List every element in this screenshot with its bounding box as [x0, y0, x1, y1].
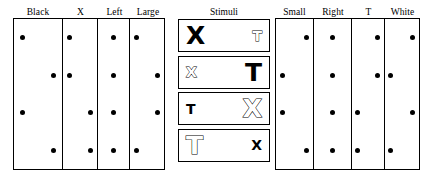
- dot: [330, 148, 335, 153]
- dot-cell: [14, 19, 62, 57]
- dot: [134, 35, 139, 40]
- dot: [88, 110, 93, 115]
- dot-cell: [98, 19, 130, 57]
- dot: [111, 110, 116, 115]
- dot: [67, 73, 72, 78]
- dot: [20, 110, 25, 115]
- dot: [88, 148, 93, 153]
- dot: [330, 73, 335, 78]
- right-dot-matrix-panel: [275, 18, 420, 170]
- dot-cell: [385, 94, 420, 132]
- column-header-black: Black: [13, 7, 63, 17]
- stimulus-glyph-right: T: [245, 60, 262, 85]
- dot-cell: [63, 19, 97, 57]
- dot: [111, 73, 116, 78]
- dot-cell: [130, 132, 164, 170]
- stimuli-list: X T X T T X T X: [178, 17, 270, 162]
- dot-cell: [63, 132, 97, 170]
- stimulus-card: T X: [178, 92, 270, 125]
- dot: [410, 110, 415, 115]
- dot: [51, 73, 56, 78]
- dot-cell: [276, 19, 313, 57]
- dot-cell: [98, 57, 130, 95]
- dot-cell: [14, 57, 62, 95]
- column-header-small: Small: [275, 7, 314, 17]
- left-panel-header-row: Black X Left Large: [13, 0, 165, 17]
- column-header-t: T: [352, 7, 385, 17]
- dot: [388, 148, 393, 153]
- dot-cell: [63, 57, 97, 95]
- dot-cell: [14, 94, 62, 132]
- figure-root: Black X Left Large: [0, 0, 428, 180]
- dot: [51, 148, 56, 153]
- column-header-large: Large: [131, 7, 165, 17]
- dot-cell: [352, 57, 384, 95]
- dot-column-large: [130, 19, 164, 169]
- stimuli-title: Stimuli: [178, 0, 270, 17]
- dot-column-small: [276, 19, 314, 169]
- dot-cell: [276, 94, 313, 132]
- stimulus-card: T X: [178, 129, 270, 162]
- dot-cell: [352, 132, 384, 170]
- column-header-x: X: [63, 7, 98, 17]
- dot: [330, 35, 335, 40]
- stimulus-glyph-left: T: [186, 133, 203, 158]
- dot: [410, 35, 415, 40]
- dot-cell: [276, 57, 313, 95]
- dot-cell: [98, 94, 130, 132]
- dot: [20, 35, 25, 40]
- dot-cell: [385, 132, 420, 170]
- dot-column-right: [314, 19, 351, 169]
- dot-cell: [130, 94, 164, 132]
- dot: [375, 35, 380, 40]
- dot: [67, 35, 72, 40]
- stimulus-glyph-right: X: [243, 96, 262, 121]
- dot-cell: [14, 132, 62, 170]
- dot-column-t: [352, 19, 385, 169]
- dot: [375, 73, 380, 78]
- stimulus-glyph-right: X: [251, 138, 262, 152]
- stimulus-card: X T: [178, 56, 270, 89]
- dot: [111, 148, 116, 153]
- dot: [155, 73, 160, 78]
- stimulus-glyph-left: T: [186, 102, 196, 116]
- right-panel-header-row: Small Right T White: [275, 0, 420, 17]
- stimulus-card: X T: [178, 19, 270, 52]
- left-dot-matrix-panel: [13, 18, 165, 170]
- column-header-left: Left: [98, 7, 131, 17]
- dot: [280, 110, 285, 115]
- stimulus-glyph-left: X: [186, 65, 197, 79]
- stimulus-glyph-left: X: [186, 23, 205, 48]
- dot-column-white: [385, 19, 420, 169]
- column-header-white: White: [385, 7, 420, 17]
- dot-column-left: [98, 19, 131, 169]
- dot: [111, 35, 116, 40]
- dot-cell: [276, 132, 313, 170]
- dot-cell: [385, 19, 420, 57]
- dot: [388, 73, 393, 78]
- dot: [280, 73, 285, 78]
- dot: [355, 110, 360, 115]
- stimuli-panel: Stimuli X T X T T X T X: [178, 0, 270, 180]
- dot-cell: [130, 19, 164, 57]
- dot-cell: [98, 132, 130, 170]
- dot-column-x: [63, 19, 98, 169]
- dot-cell: [314, 94, 350, 132]
- dot: [330, 110, 335, 115]
- stimulus-glyph-right: T: [252, 29, 262, 43]
- dot-cell: [63, 94, 97, 132]
- dot-column-black: [14, 19, 63, 169]
- dot-cell: [314, 57, 350, 95]
- dot: [304, 148, 309, 153]
- dot-cell: [130, 57, 164, 95]
- dot: [134, 148, 139, 153]
- column-header-right: Right: [314, 7, 352, 17]
- dot-cell: [314, 132, 350, 170]
- dot-cell: [385, 57, 420, 95]
- dot-cell: [352, 94, 384, 132]
- dot-cell: [314, 19, 350, 57]
- dot: [155, 110, 160, 115]
- dot-cell: [352, 19, 384, 57]
- dot: [304, 35, 309, 40]
- dot: [355, 148, 360, 153]
